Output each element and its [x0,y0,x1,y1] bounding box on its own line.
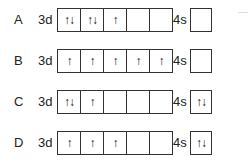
orbital-box [127,9,150,31]
4s-orbital-box: ↑↓ [190,131,212,155]
subshell-3d-label: 3d [38,12,52,27]
orbital-box [150,91,172,113]
subshell-3d-label: 3d [38,135,52,150]
orbital-box [104,91,127,113]
orbital-box [127,132,150,154]
orbital-box: ↑ [81,132,104,154]
orbital-box: ↑ [127,50,150,72]
subshell-3d-label: 3d [38,53,52,68]
option-a: A 3d ↑↓ ↑↓ ↑ 4s [0,8,248,32]
subshell-4s-label: 4s [173,53,187,68]
orbital-box: ↑↓ [58,9,81,31]
orbital-box: ↑ [104,132,127,154]
orbital-box: ↑ [150,50,172,72]
orbital-box: ↑ [104,9,127,31]
orbital-box: ↑↓ [81,9,104,31]
3d-orbital-boxes: ↑ ↑ ↑ ↑ ↑ [57,49,173,73]
option-label: A [14,12,23,27]
subshell-4s-label: 4s [173,12,187,27]
orbital-box [127,91,150,113]
orbital-box: ↑ [81,91,104,113]
4s-orbital-box [190,8,212,32]
option-label: D [14,135,23,150]
orbital-box [150,132,172,154]
subshell-3d-label: 3d [38,94,52,109]
option-b: B 3d ↑ ↑ ↑ ↑ ↑ 4s [0,49,248,73]
subshell-4s-label: 4s [173,135,187,150]
4s-orbital-box [190,49,212,73]
orbital-box: ↑ [104,50,127,72]
orbital-box: ↑ [81,50,104,72]
option-label: C [14,94,23,109]
4s-orbital-box: ↑↓ [190,90,212,114]
orbital-box: ↑↓ [58,91,81,113]
orbital-box: ↑ [58,50,81,72]
option-d: D 3d ↑ ↑ ↑ 4s ↑↓ [0,131,248,155]
option-c: C 3d ↑↓ ↑ 4s ↑↓ [0,90,248,114]
subshell-4s-label: 4s [173,94,187,109]
orbital-box: ↑ [58,132,81,154]
option-label: B [14,53,23,68]
orbital-box [150,9,172,31]
3d-orbital-boxes: ↑↓ ↑↓ ↑ [57,8,173,32]
3d-orbital-boxes: ↑ ↑ ↑ [57,131,173,155]
3d-orbital-boxes: ↑↓ ↑ [57,90,173,114]
